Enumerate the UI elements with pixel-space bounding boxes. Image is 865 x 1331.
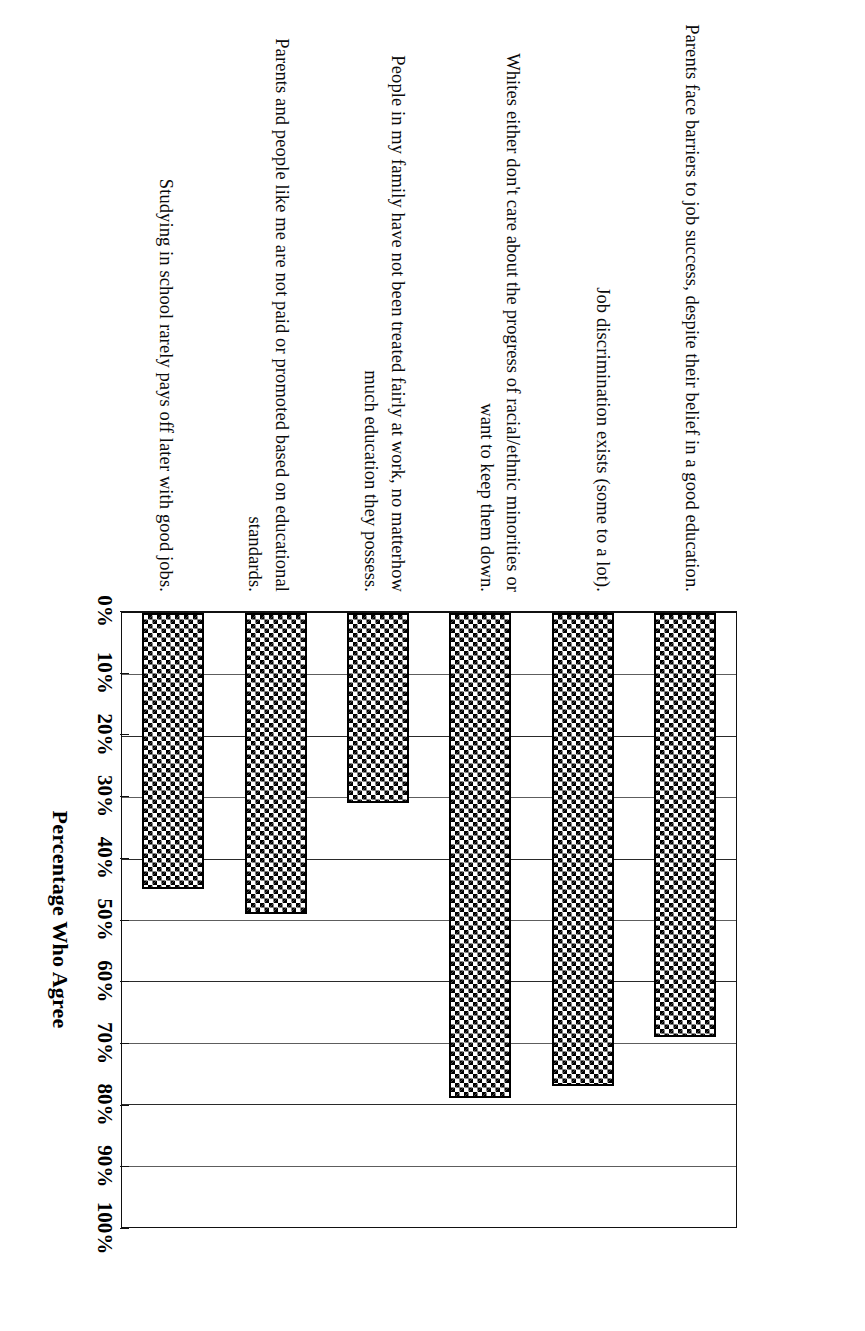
- tick-mark: [120, 611, 129, 612]
- bar-row: [142, 613, 204, 1227]
- bar: [654, 613, 716, 1037]
- tick-mark: [120, 1228, 129, 1229]
- bar-row: [449, 613, 511, 1227]
- value-axis-ticks: 0%10%20%30%40%50%60%70%80%90%100%: [75, 611, 121, 1228]
- category-label: Job discrimination exists (some to a lot…: [590, 18, 616, 606]
- bar-row: [347, 613, 409, 1227]
- tick-mark: [120, 673, 129, 674]
- tick-mark: [120, 1043, 129, 1044]
- bar: [449, 613, 511, 1098]
- tick-label: 0%: [92, 595, 117, 627]
- bar-row: [552, 613, 614, 1227]
- tick-label: 70%: [92, 1022, 117, 1064]
- tick-label: 30%: [92, 775, 117, 817]
- bar-chart-figure: Parents face barriers to job success, de…: [0, 0, 865, 1331]
- tick-label: 10%: [92, 652, 117, 694]
- tick-label: 80%: [92, 1084, 117, 1126]
- category-axis-labels: Parents face barriers to job success, de…: [121, 18, 737, 606]
- tick-label: 20%: [92, 713, 117, 755]
- tick-mark: [120, 1166, 129, 1167]
- axis-title: Percentage Who Agree: [47, 611, 73, 1228]
- bar-row: [654, 613, 716, 1227]
- category-label: Parents and people like me are not paid …: [242, 18, 295, 606]
- bar-row: [245, 613, 307, 1227]
- category-label: Parents face barriers to job success, de…: [679, 18, 705, 606]
- bar-series: [122, 613, 736, 1227]
- tick-label: 50%: [92, 899, 117, 941]
- plot-area: [121, 611, 737, 1228]
- tick-mark: [120, 1105, 129, 1106]
- tick-mark: [120, 920, 129, 921]
- tick-label: 40%: [92, 837, 117, 879]
- rotated-page-stage: Parents face barriers to job success, de…: [0, 0, 865, 1331]
- category-label: Studying in school rarely pays off later…: [153, 18, 179, 606]
- bar: [552, 613, 614, 1086]
- category-label: People in my family have not been treate…: [358, 18, 411, 606]
- tick-mark: [120, 858, 129, 859]
- tick-mark: [120, 981, 129, 982]
- bar: [347, 613, 409, 803]
- tick-label: 100%: [92, 1202, 117, 1255]
- bar: [245, 613, 307, 914]
- tick-mark: [120, 796, 129, 797]
- tick-label: 60%: [92, 960, 117, 1002]
- category-label: Whites either don't care about the progr…: [474, 18, 527, 606]
- tick-mark: [120, 734, 129, 735]
- bar: [142, 613, 204, 889]
- tick-label: 90%: [92, 1145, 117, 1187]
- plot-frame: [121, 611, 737, 1228]
